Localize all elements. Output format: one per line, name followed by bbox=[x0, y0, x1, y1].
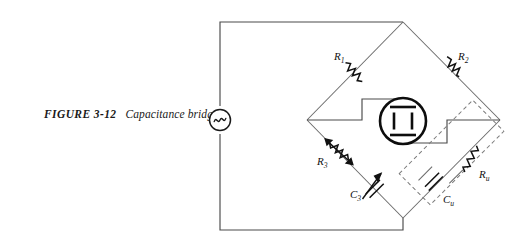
cu-branch-tie-right bbox=[449, 170, 463, 184]
label-r1: R1 bbox=[334, 50, 345, 65]
resistor-r3 bbox=[325, 139, 353, 165]
label-c3: C3 bbox=[350, 188, 361, 203]
label-r2: R2 bbox=[458, 50, 469, 65]
cu-plate-2 bbox=[429, 177, 443, 191]
circuit-diagram bbox=[0, 0, 513, 242]
figure-capacitance-bridge: FIGURE 3-12Capacitance bridge. bbox=[0, 0, 513, 242]
label-r3: R3 bbox=[317, 155, 328, 170]
cu-branch-tie-left bbox=[419, 167, 433, 181]
wire-top-source-branch bbox=[220, 22, 403, 106]
null-detector-tube-circle bbox=[380, 98, 426, 144]
label-ru: Ru bbox=[479, 168, 490, 183]
label-cu: Cu bbox=[443, 193, 454, 208]
capacitor-cu bbox=[425, 173, 443, 191]
cu-plate-1 bbox=[425, 173, 439, 187]
